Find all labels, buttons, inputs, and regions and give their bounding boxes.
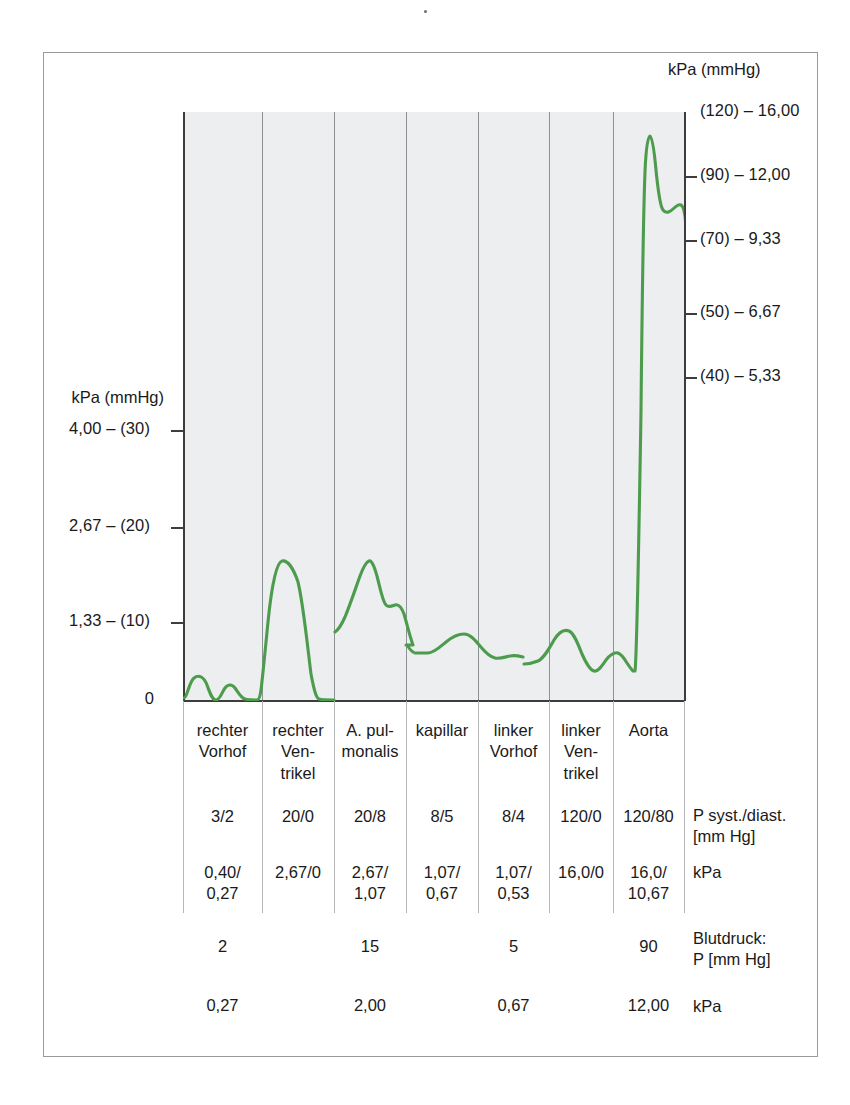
row-label-blutdruck: Blutdruck: P [mm Hg]: [693, 928, 771, 971]
kpa-a-pulmonalis: 2,67/ 1,07: [334, 862, 406, 905]
column-header-a-pulmonalis: A. pul- monalis: [334, 720, 406, 763]
blutdruck-kpa-aorta: 12,00: [613, 996, 684, 1015]
blutdruck-kpa-rechter-vorhof: 0,27: [183, 996, 262, 1015]
column-header-linker-ventrikel: linker Ven- trikel: [549, 720, 613, 784]
blutdruck-mmhg-linker-vorhof: 5: [478, 937, 549, 956]
kpa-linker-ventrikel: 16,0/0: [549, 862, 613, 883]
syst-diast-linker-vorhof: 8/4: [478, 806, 549, 827]
right-tick-label-90: (90) – 12,00: [700, 165, 790, 184]
blutdruck-mmhg-rechter-vorhof: 2: [183, 937, 262, 956]
table-divider-7: [684, 701, 685, 913]
right-tick-70: [684, 240, 697, 242]
syst-diast-aorta: 120/80: [613, 806, 684, 827]
syst-diast-linker-ventrikel: 120/0: [549, 806, 613, 827]
pressure-curve-path: [184, 136, 684, 700]
right-tick-label-50: (50) – 6,67: [700, 302, 781, 321]
right-axis-unit-header: kPa (mmHg): [668, 60, 761, 79]
column-header-kapillar: kapillar: [406, 720, 478, 741]
syst-diast-rechter-vorhof: 3/2: [183, 806, 262, 827]
right-tick-90: [684, 176, 697, 178]
pressure-curve-chart: [183, 112, 684, 701]
kpa-linker-vorhof: 1,07/ 0,53: [478, 862, 549, 905]
row-label-kpa: kPa: [693, 862, 721, 883]
syst-diast-rechter-ventrikel: 20/0: [262, 806, 334, 827]
right-tick-label-40: (40) – 5,33: [700, 366, 781, 385]
right-tick-50: [684, 313, 697, 315]
pressure-value-table: rechter Vorhof rechter Ven- trikel A. pu…: [183, 701, 685, 913]
left-axis-unit-header: kPa (mmHg): [71, 388, 164, 407]
left-tick-label-10: 1,33 – (10): [69, 611, 166, 630]
left-tick-label-0: 0: [145, 689, 166, 708]
right-tick-40: [684, 377, 697, 379]
right-tick-label-70: (70) – 9,33: [700, 229, 781, 248]
kpa-rechter-vorhof: 0,40/ 0,27: [183, 862, 262, 905]
blutdruck-kpa-a-pulmonalis: 2,00: [334, 996, 406, 1015]
syst-diast-kapillar: 8/5: [406, 806, 478, 827]
right-axis-line: [684, 112, 686, 701]
row-label-blutdruck-kpa: kPa: [693, 996, 721, 1017]
kpa-kapillar: 1,07/ 0,67: [406, 862, 478, 905]
kpa-aorta: 16,0/ 10,67: [613, 862, 684, 905]
blutdruck-kpa-linker-vorhof: 0,67: [478, 996, 549, 1015]
blood-pressure-figure: kPa (mmHg) 4,00 – (30) 2,67 – (20) 1,33 …: [0, 0, 850, 1105]
right-tick-label-120: (120) – 16,00: [700, 101, 799, 120]
syst-diast-a-pulmonalis: 20/8: [334, 806, 406, 827]
blutdruck-mmhg-a-pulmonalis: 15: [334, 937, 406, 956]
column-header-rechter-vorhof: rechter Vorhof: [183, 720, 262, 763]
kpa-rechter-ventrikel: 2,67/0: [262, 862, 334, 883]
row-label-p-syst-diast: P syst./diast. [mm Hg]: [693, 805, 786, 848]
blutdruck-mmhg-aorta: 90: [613, 937, 684, 956]
left-tick-label-30: 4,00 – (30): [69, 419, 166, 438]
left-tick-label-20: 2,67 – (20): [69, 516, 166, 535]
column-header-rechter-ventrikel: rechter Ven- trikel: [262, 720, 334, 784]
column-header-linker-vorhof: linker Vorhof: [478, 720, 549, 763]
column-header-aorta: Aorta: [613, 720, 684, 741]
